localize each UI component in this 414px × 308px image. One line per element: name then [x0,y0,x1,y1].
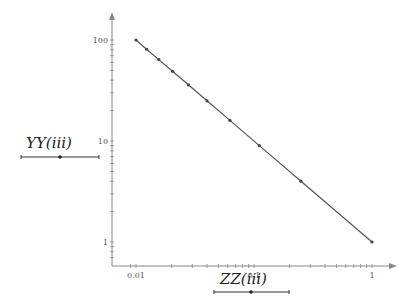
data-series [134,38,373,243]
data-point-marker [299,180,302,183]
ticks: 0.010.11110100 [93,36,375,280]
x-axis-arrow-icon [389,263,397,269]
slider-handle[interactable] [58,155,62,159]
data-point-marker [145,48,148,51]
y-axis-arrow-icon [109,12,115,20]
x-axis-label-paren: (iii) [241,270,267,288]
data-point-marker [205,99,208,102]
y-axis-label-paren: (iii) [46,134,72,152]
y-tick-label: 10 [98,137,108,146]
data-point-marker [370,240,373,243]
x-tick-label: 0.01 [127,271,145,280]
data-point-marker [171,70,174,73]
data-point-marker [157,58,160,61]
data-point-marker [258,144,261,147]
y-tick-label: 1 [103,238,108,247]
data-point-marker [134,38,137,41]
y-slider[interactable] [21,155,99,159]
y-tick-label: 100 [93,36,108,45]
y-axis-label: YY(iii) [26,134,72,152]
y-axis-label-base: YY [26,134,46,152]
x-axis-label-base: ZZ [220,270,241,288]
slider-handle[interactable] [249,290,253,294]
data-point-marker [187,83,190,86]
x-axis-label: ZZ(iii) [220,270,267,288]
x-tick-label: 1 [369,271,374,280]
x-slider[interactable] [214,290,289,294]
chart-canvas: 0.010.11110100 [0,0,414,308]
data-point-marker [228,119,231,122]
